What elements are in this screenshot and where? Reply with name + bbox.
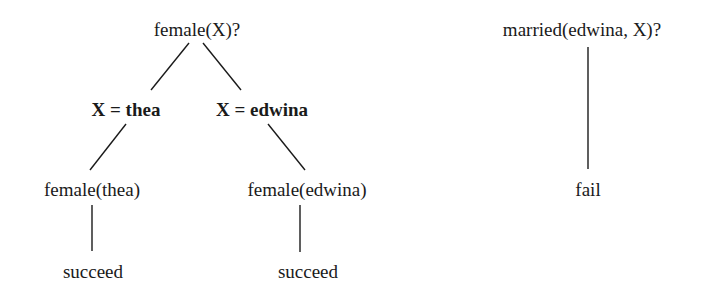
node-subgoal-female-edwina: female(edwina) (247, 180, 366, 199)
prolog-search-tree-diagram: female(X)? X = thea X = edwina female(th… (0, 0, 708, 290)
node-root-married-query: married(edwina, X)? (503, 20, 661, 39)
edge-layer (0, 0, 708, 290)
node-result-succeed-thea: succeed (63, 262, 123, 281)
node-root-female-query: female(X)? (154, 20, 241, 39)
node-binding-x-thea: X = thea (92, 100, 161, 119)
node-result-succeed-edwina: succeed (278, 262, 338, 281)
node-subgoal-female-thea: female(thea) (44, 180, 140, 199)
edge-root-to-thea (151, 43, 189, 90)
node-result-fail: fail (575, 180, 600, 199)
edge-edwina-to-female-edwina (268, 124, 305, 170)
edge-thea-to-female-thea (90, 124, 126, 170)
node-binding-x-edwina: X = edwina (216, 100, 308, 119)
edge-root-to-edwina (203, 43, 241, 90)
